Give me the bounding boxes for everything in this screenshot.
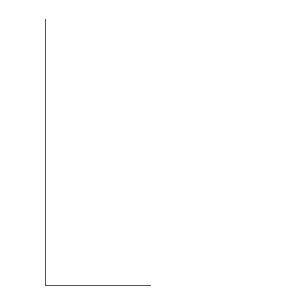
- x-axis-line: [45, 285, 151, 286]
- stacked-bar: [62, 19, 150, 285]
- stacked-bar-chart: [0, 0, 290, 301]
- y-axis-line: [45, 19, 46, 286]
